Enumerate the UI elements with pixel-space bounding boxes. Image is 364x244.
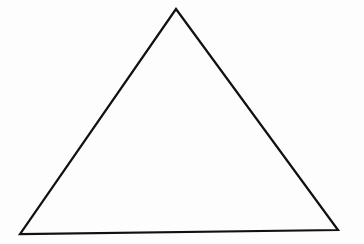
- triangle-outline: [20, 9, 338, 234]
- triangle-figure: [0, 0, 364, 244]
- diagram-canvas: [0, 0, 364, 244]
